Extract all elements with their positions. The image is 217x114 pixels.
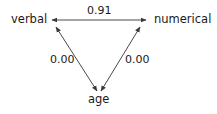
- correlation-diagram: verbal numerical age 0.91 0.00 0.00: [0, 0, 217, 114]
- node-age: age: [88, 93, 109, 106]
- coefficient-numerical-age: 0.00: [125, 53, 150, 66]
- coefficient-verbal-age: 0.00: [50, 53, 75, 66]
- node-verbal: verbal: [11, 13, 47, 26]
- node-numerical: numerical: [154, 13, 211, 26]
- coefficient-verbal-numerical: 0.91: [87, 4, 112, 17]
